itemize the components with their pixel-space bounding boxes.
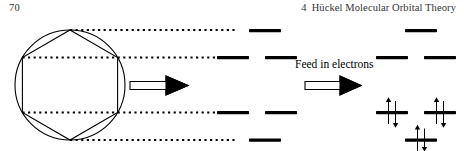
mo-level-bar (424, 56, 456, 59)
mo-level-bar (376, 56, 408, 59)
electron-spin-up-arrow (434, 97, 439, 124)
mo-level-bar (405, 139, 437, 142)
frost-circle-group (15, 30, 125, 140)
inscribed-hexagon (22, 30, 117, 140)
transform-arrow-head (166, 76, 188, 95)
electron-spin-up-arrow (415, 125, 420, 151)
page-number: 70 (9, 2, 20, 13)
running-head-title: Hückel Molecular Orbital Theory (312, 2, 456, 13)
figure-canvas: Feed in electrons (0, 18, 464, 151)
page: 70 4Hückel Molecular Orbital Theory (0, 0, 464, 151)
figure-frost-circle-benzene: Feed in electrons (0, 18, 464, 151)
fill-electrons-arrow (305, 76, 361, 95)
mo-level-bar (265, 56, 297, 59)
mo-level-bar (424, 111, 456, 114)
electron-spin-down-arrow (441, 101, 446, 128)
electron-spin-down-arrow (393, 101, 398, 128)
mo-level-bar (217, 111, 249, 114)
filled-mo-levels-group (376, 29, 456, 151)
mo-level-bar (405, 29, 437, 32)
mo-level-occupied (405, 125, 437, 151)
running-head-chapter-number: 4 (301, 2, 306, 13)
mo-level-bar (249, 139, 281, 142)
mo-level-bar (265, 111, 297, 114)
mo-level-bar (217, 56, 249, 59)
electron-spin-up-arrow (386, 97, 391, 124)
transform-arrow (130, 76, 188, 95)
mo-level-occupied (376, 97, 408, 128)
empty-mo-levels-group (217, 29, 297, 142)
fill-electrons-arrow-head (340, 76, 361, 95)
mo-level-bar (249, 29, 281, 32)
mo-level-bar (376, 111, 408, 114)
frost-circle-outline (15, 30, 125, 140)
mo-level-occupied (424, 97, 456, 128)
running-head: 4Hückel Molecular Orbital Theory (301, 2, 456, 13)
feed-in-electrons-label: Feed in electrons (295, 58, 374, 70)
